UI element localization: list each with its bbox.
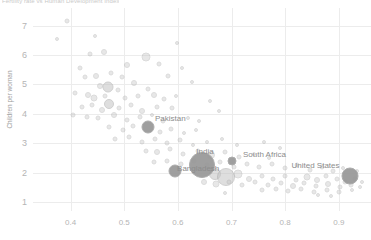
data-bubble[interactable] [164, 141, 169, 146]
data-bubble[interactable] [90, 103, 95, 108]
data-bubble[interactable] [87, 51, 92, 56]
data-bubble[interactable] [153, 136, 158, 141]
data-bubble[interactable] [109, 70, 114, 75]
data-bubble[interactable] [143, 148, 148, 153]
data-bubble[interactable] [197, 119, 201, 123]
data-bubble[interactable] [78, 66, 83, 71]
data-bubble[interactable] [220, 137, 224, 141]
data-bubble[interactable] [157, 61, 162, 66]
data-bubble[interactable] [152, 160, 157, 165]
data-bubble-highlighted[interactable] [227, 156, 236, 165]
data-bubble[interactable] [208, 99, 212, 103]
data-bubble[interactable] [257, 164, 262, 169]
data-bubble[interactable] [170, 106, 175, 111]
data-bubble[interactable] [55, 37, 59, 41]
data-bubble[interactable] [154, 149, 160, 155]
data-bubble[interactable] [223, 150, 228, 155]
data-bubble[interactable] [325, 187, 330, 192]
data-bubble[interactable] [93, 73, 99, 79]
data-bubble[interactable] [90, 94, 97, 101]
data-bubble[interactable] [244, 161, 249, 166]
data-bubble[interactable] [213, 180, 220, 187]
data-bubble[interactable] [84, 114, 89, 119]
data-bubble[interactable] [165, 158, 170, 163]
data-bubble[interactable] [299, 187, 304, 192]
data-bubble[interactable] [191, 143, 195, 147]
data-bubble[interactable] [337, 184, 342, 189]
data-bubble[interactable] [194, 128, 198, 132]
data-bubble[interactable] [131, 80, 137, 86]
data-bubble[interactable] [259, 173, 264, 178]
data-bubble[interactable] [169, 126, 174, 131]
data-bubble[interactable] [290, 183, 296, 189]
data-bubble[interactable] [130, 123, 135, 128]
data-bubble[interactable] [334, 177, 339, 182]
data-bubble[interactable] [101, 49, 107, 55]
data-bubble[interactable] [262, 140, 266, 144]
data-bubble[interactable] [93, 34, 97, 38]
data-bubble[interactable] [316, 193, 320, 197]
data-bubble[interactable] [360, 180, 364, 184]
data-bubble[interactable] [240, 182, 245, 187]
data-bubble[interactable] [141, 52, 150, 61]
data-bubble[interactable] [129, 103, 134, 108]
data-bubble[interactable] [302, 181, 307, 186]
data-bubble[interactable] [145, 86, 150, 91]
data-bubble[interactable] [127, 135, 132, 140]
data-bubble[interactable] [329, 194, 333, 198]
data-bubble[interactable] [124, 62, 130, 68]
data-bubble-highlighted[interactable] [341, 167, 358, 184]
data-bubble[interactable] [303, 174, 310, 181]
data-bubble[interactable] [96, 116, 101, 121]
data-bubble[interactable] [278, 180, 283, 185]
data-bubble[interactable] [139, 108, 145, 114]
data-bubble[interactable] [137, 114, 142, 119]
data-bubble[interactable] [120, 75, 125, 80]
data-bubble[interactable] [168, 147, 173, 152]
data-bubble[interactable] [358, 185, 362, 189]
data-bubble[interactable] [293, 178, 298, 183]
data-bubble[interactable] [154, 104, 159, 109]
data-bubble[interactable] [217, 109, 221, 113]
data-bubble[interactable] [112, 136, 117, 141]
data-bubble[interactable] [121, 128, 126, 133]
data-bubble[interactable] [178, 138, 183, 143]
data-bubble[interactable] [174, 94, 178, 98]
data-bubble[interactable] [350, 188, 354, 192]
data-bubble[interactable] [314, 184, 319, 189]
data-bubble[interactable] [235, 143, 239, 147]
data-bubble[interactable] [111, 112, 117, 118]
data-bubble[interactable] [325, 181, 331, 187]
data-bubble[interactable] [175, 41, 179, 45]
data-bubble[interactable] [166, 73, 171, 78]
data-bubble[interactable] [227, 179, 232, 184]
data-bubble[interactable] [201, 179, 207, 185]
data-bubble[interactable] [157, 129, 162, 134]
data-bubble[interactable] [139, 139, 144, 144]
data-bubble[interactable] [71, 113, 76, 118]
data-bubble[interactable] [181, 151, 186, 156]
data-bubble[interactable] [99, 107, 105, 113]
data-bubble[interactable] [122, 95, 127, 100]
data-bubble[interactable] [117, 106, 122, 111]
data-bubble[interactable] [331, 169, 336, 174]
data-bubble[interactable] [186, 116, 190, 120]
data-bubble[interactable] [83, 75, 88, 80]
data-bubble[interactable] [190, 80, 194, 84]
data-bubble[interactable] [79, 104, 84, 109]
data-bubble[interactable] [283, 173, 288, 178]
data-bubble[interactable] [103, 82, 114, 93]
data-bubble[interactable] [253, 180, 258, 185]
data-bubble[interactable] [286, 188, 291, 193]
data-bubble[interactable] [182, 131, 186, 135]
data-bubble[interactable] [104, 99, 114, 109]
data-bubble[interactable] [336, 190, 341, 195]
data-bubble-highlighted[interactable] [142, 121, 155, 134]
data-bubble[interactable] [314, 177, 320, 183]
data-bubble[interactable] [135, 94, 140, 99]
data-bubble[interactable] [265, 183, 270, 188]
data-bubble[interactable] [237, 154, 242, 159]
data-bubble[interactable] [107, 125, 112, 130]
data-bubble[interactable] [246, 176, 252, 182]
data-bubble[interactable] [283, 166, 288, 171]
